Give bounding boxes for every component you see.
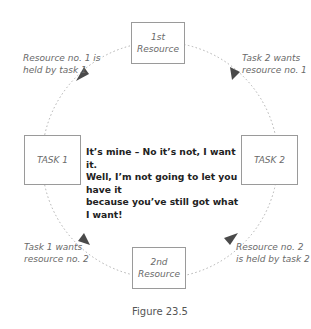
resource-2-line2: Resource <box>138 268 180 280</box>
edge-label-bottom-right-line2: is held by task 2 <box>236 253 310 265</box>
resource-1-line2: Resource <box>137 43 179 55</box>
edge-label-bottom-left: Task 1 wants resource no. 2 <box>24 241 89 265</box>
edge-label-bottom-left-line2: resource no. 2 <box>24 253 89 265</box>
edge-label-bottom-right: Resource no. 2 is held by task 2 <box>236 241 310 265</box>
edge-label-top-left-line2: held by task 1 <box>23 64 100 76</box>
edge-label-bottom-left-line1: Task 1 wants <box>24 241 89 253</box>
task-2-label: TASK 2 <box>254 154 285 166</box>
resource-2-line1: 2nd <box>138 256 180 268</box>
edge-label-top-left-line1: Resource no. 1 is <box>23 52 100 64</box>
edge-label-top-right: Task 2 wants resource no. 1 <box>242 52 307 76</box>
edge-label-top-right-line1: Task 2 wants <box>242 52 307 64</box>
resource-2-box: 2nd Resource <box>132 247 186 289</box>
dialogue-line1: It’s mine – No it’s not, I want it. <box>86 146 242 171</box>
dialogue-text: It’s mine – No it’s not, I want it. Well… <box>86 146 242 221</box>
resource-1-line1: 1st <box>137 31 179 43</box>
dialogue-line2: Well, I’m not going to let you have it <box>86 171 242 196</box>
task-1-box: TASK 1 <box>24 135 81 185</box>
dialogue-line3: because you’ve still got what I want! <box>86 196 242 221</box>
task-1-label: TASK 1 <box>37 154 68 166</box>
edge-label-top-right-line2: resource no. 1 <box>242 64 307 76</box>
edge-label-top-left: Resource no. 1 is held by task 1 <box>23 52 100 76</box>
edge-label-bottom-right-line1: Resource no. 2 <box>236 241 310 253</box>
task-2-box: TASK 2 <box>241 135 298 185</box>
figure-caption: Figure 23.5 <box>0 306 311 317</box>
resource-1-box: 1st Resource <box>131 22 185 64</box>
